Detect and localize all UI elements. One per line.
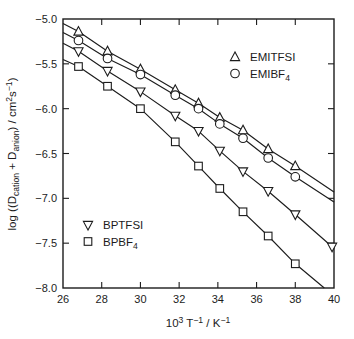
chart-svg: 2628303234363840−5.0−5.5−6.0−6.5−7.0−7.5… [0, 0, 354, 339]
marker-circle-icon [239, 134, 248, 143]
marker-triangle-down-icon [136, 88, 145, 97]
marker-triangle-down-icon [171, 112, 180, 121]
x-tick-label-40: 40 [328, 293, 340, 305]
legend-label-emibf4: EMIBF4 [250, 68, 290, 83]
legend-label-bpbf4-part: BPBF [103, 236, 133, 248]
x-axis-label: 103 T−1 / K−1 [166, 315, 231, 330]
marker-square-icon [264, 232, 272, 240]
marker-square-icon [239, 208, 247, 216]
x-tick-label-28: 28 [96, 293, 108, 305]
y-tick-label--8: −8.0 [35, 282, 57, 294]
marker-square-icon [291, 260, 299, 268]
marker-triangle-up-icon [74, 27, 83, 36]
y-axis-label-part: cation [11, 173, 21, 196]
marker-circle-icon [194, 104, 203, 113]
y-tick-label--6.5: −6.5 [35, 148, 57, 160]
marker-square-icon [216, 185, 224, 193]
y-axis-label-part: ) [6, 77, 18, 81]
x-axis-label-part: T [183, 317, 193, 329]
y-tick-label--7.5: −7.5 [35, 237, 57, 249]
x-tick-label-38: 38 [289, 293, 301, 305]
marker-triangle-down-icon [264, 188, 273, 197]
marker-square-icon [104, 82, 112, 90]
legend-label-emibf4-part: 4 [285, 73, 290, 83]
legend-label-bptfsi-part: BPTFSI [103, 219, 143, 231]
y-axis-label-part: −1 [4, 81, 14, 91]
y-axis-label-part: anion [11, 130, 21, 151]
x-axis-label-part: 10 [166, 317, 179, 329]
legend-label-bpbf4-part: 4 [133, 241, 138, 251]
marker-circle-icon [215, 120, 224, 129]
legend-label-bpbf4: BPBF4 [103, 236, 138, 251]
x-axis-label-part: −1 [220, 315, 230, 325]
y-axis-label-part: ) / cm [6, 102, 18, 131]
y-axis-label: log ((Dcation + Danion) / cm2s−1) [4, 77, 22, 230]
x-axis-label-part: / K [203, 317, 221, 329]
y-tick-label--7: −7.0 [35, 192, 57, 204]
marker-square-icon [171, 138, 179, 146]
marker-circle-icon [103, 54, 112, 63]
marker-square-icon [84, 238, 92, 246]
figure-root: 2628303234363840−5.0−5.5−6.0−6.5−7.0−7.5… [0, 0, 354, 339]
x-tick-label-34: 34 [212, 293, 224, 305]
legend-label-bptfsi: BPTFSI [103, 219, 143, 231]
x-tick-label-32: 32 [173, 293, 185, 305]
x-tick-label-30: 30 [134, 293, 146, 305]
y-axis-label-part: log ((D [6, 196, 18, 231]
marker-circle-icon [264, 154, 273, 163]
y-axis-label-part: + D [6, 152, 18, 173]
marker-square-icon [195, 162, 203, 170]
legend-label-emitfsi: EMITFSI [250, 51, 295, 63]
marker-circle-icon [136, 70, 145, 79]
x-tick-label-26: 26 [57, 293, 69, 305]
x-axis-label-part: −1 [193, 315, 203, 325]
legend-label-emitfsi-part: EMITFSI [250, 51, 295, 63]
marker-triangle-up-icon [264, 144, 273, 153]
marker-triangle-down-icon [103, 67, 112, 76]
series-line-bptfsi [63, 43, 334, 248]
marker-square-icon [75, 63, 83, 71]
marker-triangle-down-icon [327, 243, 336, 252]
marker-triangle-down-icon [215, 147, 224, 156]
x-tick-label-36: 36 [250, 293, 262, 305]
marker-circle-icon [74, 36, 83, 45]
marker-triangle-down-icon [83, 221, 92, 230]
marker-circle-icon [171, 91, 180, 100]
marker-triangle-down-icon [74, 48, 83, 57]
marker-triangle-up-icon [230, 52, 239, 61]
y-tick-label--6: −6.0 [35, 103, 57, 115]
marker-circle-icon [231, 69, 240, 78]
marker-circle-icon [291, 173, 300, 182]
y-tick-label--5: −5.0 [35, 13, 57, 25]
marker-triangle-down-icon [238, 168, 247, 177]
marker-triangle-up-icon [103, 46, 112, 55]
y-tick-label--5.5: −5.5 [35, 58, 57, 70]
legend-label-emibf4-part: EMIBF [250, 68, 285, 80]
series-line-bpbf4 [63, 59, 324, 288]
marker-triangle-down-icon [291, 211, 300, 220]
marker-triangle-up-icon [291, 161, 300, 170]
marker-triangle-up-icon [238, 125, 247, 134]
marker-square-icon [137, 105, 145, 113]
